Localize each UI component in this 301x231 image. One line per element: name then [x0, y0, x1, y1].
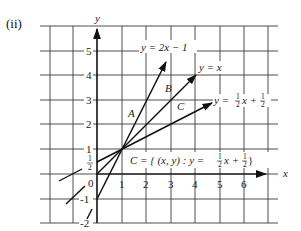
y-tick-labels: 5 4 3 2 1 -1 -2 1 2 — [79, 44, 93, 229]
svg-text:5: 5 — [86, 45, 92, 57]
svg-text:0: 0 — [88, 177, 94, 189]
svg-text:3: 3 — [86, 94, 92, 106]
line-y-2x-minus-1 — [97, 62, 166, 199]
svg-text:1: 1 — [119, 178, 125, 190]
svg-text:-1: -1 — [80, 193, 89, 205]
panel-label: (ii) — [6, 16, 22, 31]
svg-text:2: 2 — [236, 100, 240, 109]
x-axis-label: x — [282, 167, 288, 179]
svg-text:2: 2 — [143, 178, 149, 190]
svg-text:6: 6 — [241, 178, 247, 190]
region-label-C: C — [177, 100, 185, 112]
label-eq-B: y = x — [198, 61, 230, 74]
svg-text:y = x: y = x — [198, 61, 222, 73]
svg-text:x +: x + — [241, 94, 257, 106]
y-axis-label: y — [94, 12, 100, 24]
label-eq-A: y = 2x − 1 — [139, 40, 197, 53]
svg-text:}: } — [248, 154, 253, 166]
svg-text:2: 2 — [243, 160, 247, 169]
svg-text:1: 1 — [88, 154, 92, 163]
svg-text:C = { (x, y) : y =: C = { (x, y) : y = — [130, 154, 204, 167]
x-tick-labels: 0 1 2 3 4 5 6 — [88, 177, 247, 190]
label-eq-C: y = 1 2 x + 1 2 — [213, 92, 271, 109]
svg-text:2: 2 — [86, 118, 92, 130]
region-label-B: B — [165, 82, 172, 94]
grid-horizontal — [40, 26, 278, 223]
svg-text:2: 2 — [261, 100, 265, 109]
coordinate-diagram: (ii) x y 5 4 3 2 1 — [0, 0, 301, 231]
svg-text:x +: x + — [223, 154, 239, 166]
svg-text:y = 2x − 1: y = 2x − 1 — [140, 41, 188, 53]
svg-text:4: 4 — [192, 178, 198, 190]
set-notation-C: C = { (x, y) : y = 1 2 x + 1 2 } — [128, 152, 273, 169]
svg-text:y =: y = — [213, 94, 229, 106]
svg-text:2: 2 — [88, 163, 92, 172]
svg-text:5: 5 — [217, 178, 223, 190]
svg-text:3: 3 — [168, 178, 174, 190]
region-label-A: A — [127, 107, 135, 119]
svg-text:2: 2 — [218, 160, 222, 169]
svg-text:4: 4 — [86, 69, 92, 81]
